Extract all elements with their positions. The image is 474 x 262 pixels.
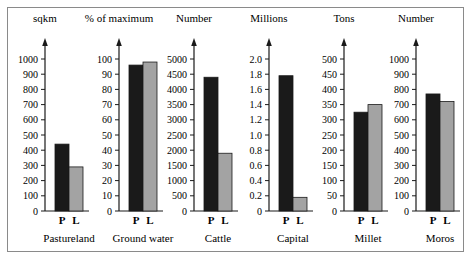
bar-category-label: P — [358, 214, 365, 226]
y-tick-label: 0 — [107, 206, 112, 217]
y-tick-label: 350 — [322, 99, 337, 110]
y-tick-label: 200 — [322, 145, 337, 156]
y-tick-label: 0.8 — [250, 145, 263, 156]
bar-l — [218, 153, 232, 211]
y-tick-label: 0.4 — [250, 175, 263, 186]
y-tick-label: 2.0 — [250, 54, 263, 65]
y-tick-label: 200 — [23, 175, 38, 186]
y-tick-label: 1.0 — [250, 130, 263, 141]
y-axis-unit-label: sqkm — [33, 12, 57, 24]
y-tick-label: 200 — [394, 175, 409, 186]
bar-p — [55, 144, 69, 211]
y-tick-label: 500 — [23, 130, 38, 141]
y-tick-label: 3000 — [167, 114, 187, 125]
bar-category-label: L — [221, 214, 228, 226]
bar-l — [368, 105, 382, 211]
y-tick-label: 300 — [322, 114, 337, 125]
bar-category-label: L — [72, 214, 79, 226]
y-tick-label: 100 — [23, 190, 38, 201]
panel-cattle: Number0500100015002000250030003500400045… — [167, 12, 238, 244]
panel-pastureland: sqkm01002003004005006007008009001000PLPa… — [18, 12, 95, 244]
y-tick-label: 4000 — [167, 84, 187, 95]
bar-category-label: L — [296, 214, 303, 226]
y-tick-label: 2000 — [167, 145, 187, 156]
y-tick-label: 0 — [33, 206, 38, 217]
panel-title: Capital — [277, 232, 309, 244]
axis-arrow-icon — [116, 38, 122, 46]
y-tick-label: 1000 — [18, 54, 38, 65]
y-tick-label: 400 — [23, 145, 38, 156]
axis-arrow-icon — [413, 38, 419, 46]
axis-arrow-icon — [42, 38, 48, 46]
y-tick-label: 30 — [102, 160, 112, 171]
panel-title: Ground water — [113, 232, 174, 244]
y-tick-label: 100 — [394, 190, 409, 201]
y-tick-label: 1000 — [167, 175, 187, 186]
y-tick-label: 10 — [102, 190, 112, 201]
panel-title: Moros — [426, 232, 455, 244]
y-tick-label: 150 — [322, 160, 337, 171]
bar-p — [279, 76, 293, 211]
y-tick-label: 250 — [322, 130, 337, 141]
panel-ground-water: % of maximum0102030405060708090100PLGrou… — [85, 12, 174, 244]
bar-p — [204, 77, 218, 211]
y-tick-label: 500 — [322, 54, 337, 65]
bar-p — [354, 112, 368, 211]
y-tick-label: 1.8 — [250, 69, 263, 80]
y-tick-label: 90 — [102, 69, 112, 80]
y-tick-label: 80 — [102, 84, 112, 95]
y-axis-unit-label: Number — [398, 12, 434, 24]
y-axis-unit-label: Number — [176, 12, 212, 24]
y-tick-label: 400 — [322, 84, 337, 95]
y-tick-label: 100 — [322, 175, 337, 186]
y-tick-label: 0.2 — [250, 190, 263, 201]
y-tick-label: 1.6 — [250, 84, 263, 95]
axis-arrow-icon — [191, 38, 197, 46]
y-tick-label: 500 — [394, 130, 409, 141]
bar-category-label: P — [59, 214, 66, 226]
y-tick-label: 3500 — [167, 99, 187, 110]
y-tick-label: 50 — [327, 190, 337, 201]
panel-millet: Tons050100150200250300350400450500PLMill… — [322, 12, 388, 244]
y-tick-label: 0 — [182, 206, 187, 217]
y-tick-label: 600 — [23, 114, 38, 125]
y-tick-label: 5000 — [167, 54, 187, 65]
bar-l — [293, 197, 307, 211]
y-tick-label: 0 — [404, 206, 409, 217]
y-tick-label: 500 — [172, 190, 187, 201]
axis-arrow-icon — [266, 38, 272, 46]
bar-category-label: P — [208, 214, 215, 226]
y-tick-label: 700 — [394, 99, 409, 110]
y-tick-label: 900 — [23, 69, 38, 80]
y-axis-unit-label: % of maximum — [85, 12, 154, 24]
y-tick-label: 900 — [394, 69, 409, 80]
bar-p — [129, 65, 143, 211]
y-tick-label: 50 — [102, 130, 112, 141]
panel-title: Cattle — [205, 232, 231, 244]
y-tick-label: 300 — [23, 160, 38, 171]
bar-l — [143, 62, 157, 211]
y-tick-label: 600 — [394, 114, 409, 125]
y-tick-label: 450 — [322, 69, 337, 80]
y-axis-unit-label: Tons — [333, 12, 354, 24]
bar-category-label: P — [283, 214, 290, 226]
y-tick-label: 40 — [102, 145, 112, 156]
bar-category-label: P — [133, 214, 140, 226]
panel-moros: Number01002003004005006007008009001000PL… — [389, 12, 460, 244]
bar-category-label: L — [443, 214, 450, 226]
y-tick-label: 20 — [102, 175, 112, 186]
bar-category-label: P — [430, 214, 437, 226]
y-tick-label: 0.6 — [250, 160, 263, 171]
y-tick-label: 0 — [257, 206, 262, 217]
y-tick-label: 70 — [102, 99, 112, 110]
y-tick-label: 700 — [23, 99, 38, 110]
panel-title: Millet — [355, 232, 382, 244]
y-tick-label: 2500 — [167, 130, 187, 141]
bar-p — [426, 94, 440, 211]
y-tick-label: 800 — [23, 84, 38, 95]
bar-l — [69, 167, 83, 211]
panel-title: Pastureland — [43, 232, 95, 244]
y-axis-unit-label: Millions — [250, 12, 287, 24]
y-tick-label: 1.2 — [250, 114, 263, 125]
y-tick-label: 100 — [97, 54, 112, 65]
